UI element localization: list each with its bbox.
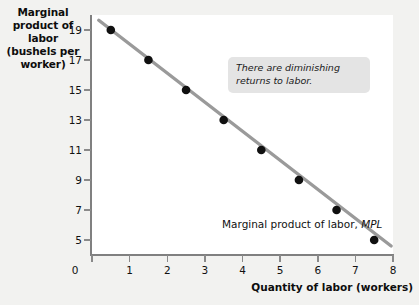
x-axis-title: Quantity of labor (workers) — [180, 281, 413, 293]
data-point — [144, 56, 153, 65]
data-point — [257, 146, 266, 155]
series-label-symbol: MPL — [361, 218, 382, 230]
data-point — [332, 206, 341, 215]
mpl-trend-line — [99, 20, 391, 246]
data-point — [182, 86, 191, 95]
data-point — [107, 26, 116, 35]
data-point — [295, 176, 304, 185]
series-label: Marginal product of labor, MPL — [222, 218, 382, 230]
diminishing-returns-callout: There are diminishing returns to labor. — [228, 57, 370, 93]
data-point — [370, 236, 379, 245]
data-point — [219, 116, 228, 125]
series-layer — [0, 0, 419, 305]
chart-figure: Marginal product of labor (bushels per w… — [0, 0, 419, 305]
series-label-prefix: Marginal product of labor, — [222, 218, 361, 230]
